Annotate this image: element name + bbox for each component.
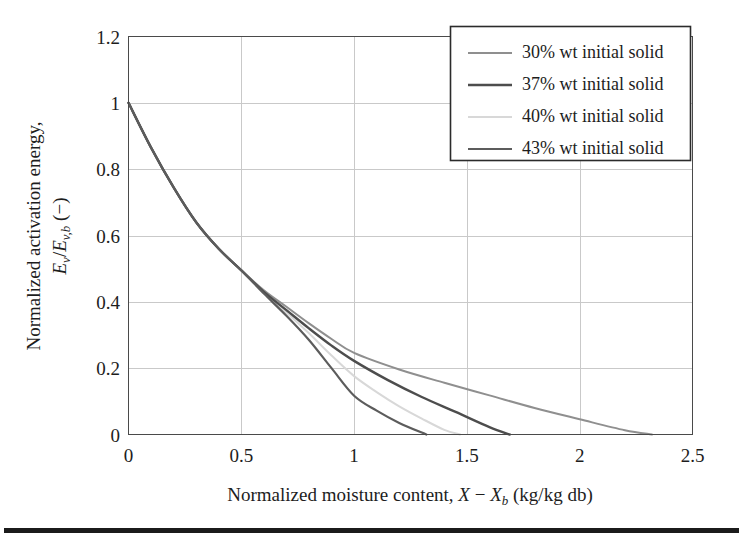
y-tick-label: 0.2 [96, 358, 120, 379]
y-tick-label: 1.2 [96, 27, 120, 48]
x-tick-label: 1.5 [455, 445, 479, 466]
x-axis-title: Normalized moisture content, X − Xb (kg/… [227, 484, 592, 508]
y-tick-label: 0.6 [96, 226, 120, 247]
x-tick-label: 0 [124, 445, 134, 466]
x-axis-tick-labels: 00.511.522.5 [124, 445, 705, 466]
y-axis-title-line2: Ev/Ev,b (−) [49, 198, 73, 276]
legend-label: 37% wt initial solid [522, 74, 664, 94]
y-tick-label: 1 [111, 93, 121, 114]
y-tick-label: 0 [111, 425, 121, 446]
x-tick-label: 1 [349, 445, 359, 466]
y-title-symbol-e2: E [49, 240, 70, 253]
y-title-subscript-vb: v,b [58, 225, 73, 240]
normalized-activation-energy-chart: 00.511.522.5 00.20.40.60.811.2 Normalize… [0, 0, 743, 537]
series-line-40-wt-initial-solid [129, 103, 461, 435]
y-axis-title-line1: Normalized activation energy, [23, 122, 44, 351]
x-title-minus: − [470, 484, 490, 505]
x-tick-label: 2 [575, 445, 585, 466]
y-axis-tick-labels: 00.20.40.60.811.2 [96, 27, 120, 446]
legend-label: 43% wt initial solid [522, 138, 664, 158]
legend-label: 40% wt initial solid [522, 106, 664, 126]
figure-container: 00.511.522.5 00.20.40.60.811.2 Normalize… [0, 0, 743, 537]
x-title-tail: (kg/kg db) [508, 484, 592, 506]
x-tick-label: 0.5 [229, 445, 253, 466]
y-title-tail: (−) [49, 198, 71, 226]
x-tick-label: 2.5 [681, 445, 705, 466]
y-tick-label: 0.4 [96, 292, 120, 313]
x-title-lead: Normalized moisture content, [227, 484, 458, 505]
footer-rule [4, 528, 739, 533]
y-tick-label: 0.8 [96, 159, 120, 180]
y-title-symbol-e1: E [49, 262, 70, 275]
series-line-43-wt-initial-solid [129, 103, 427, 435]
legend-label: 30% wt initial solid [522, 42, 664, 62]
